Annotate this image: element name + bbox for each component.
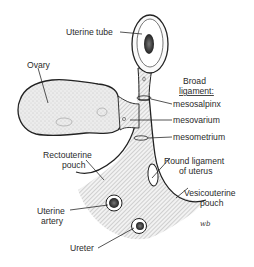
label-round-ligament: Round ligament <box>164 156 225 166</box>
label-uterine-artery: artery <box>41 216 64 226</box>
leader-rectouterine <box>86 160 104 180</box>
label-vesicouterine-pouch: Vesicouterine <box>184 188 236 198</box>
label-broad-ligament: Broad <box>183 76 206 86</box>
label-ureter: Ureter <box>70 243 94 253</box>
label-round-ligament: of uterus <box>179 166 212 176</box>
broad-ligament-diagram: Uterine tube Ovary Broad ligament: mesos… <box>0 0 254 267</box>
label-vesicouterine-pouch: pouch <box>200 198 224 208</box>
label-rectouterine-pouch: pouch <box>62 160 86 170</box>
label-mesometrium: mesometrium <box>173 132 225 142</box>
label-uterine-artery: Uterine <box>37 206 65 216</box>
artist-signature: wb <box>200 220 211 228</box>
label-rectouterine-pouch: Rectouterine <box>43 150 92 160</box>
label-mesovarium: mesovarium <box>173 115 220 125</box>
leader-mesosalpinx <box>151 99 172 104</box>
label-broad-ligament: ligament: <box>179 86 214 96</box>
label-mesosalpinx: mesosalpinx <box>173 99 221 109</box>
ureter-lumen <box>136 222 144 230</box>
uterine-tube-lumen <box>144 34 154 54</box>
label-uterine-tube: Uterine tube <box>66 27 113 37</box>
uterine-artery-lumen <box>109 198 119 208</box>
label-ovary: Ovary <box>27 60 51 70</box>
mesovarium-shape <box>118 96 139 130</box>
ovary-shape <box>18 79 126 135</box>
